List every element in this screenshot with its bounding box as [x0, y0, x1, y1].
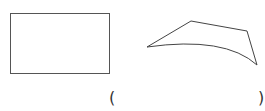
answer-blank-close-paren: ): [258, 90, 264, 106]
rectangle-shape: [11, 14, 110, 74]
curved-quadrilateral-shape: [147, 21, 257, 65]
answer-blank-open-paren: (: [109, 90, 115, 106]
geometry-figure: [0, 0, 265, 111]
